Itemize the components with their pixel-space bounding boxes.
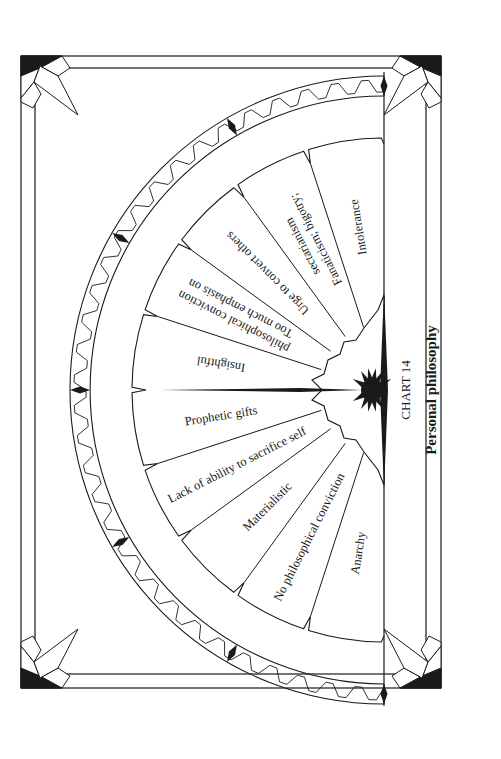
corner-ornament-bottom-right [384, 629, 441, 688]
segment-label-materialistic: Materialistic [240, 479, 295, 534]
svg-text:Prophetic gifts: Prophetic gifts [184, 403, 259, 428]
segment-label-intolerance: Intolerance [347, 198, 370, 256]
chart-diagram: IntoleranceFanaticism; bigotry;sectarian… [0, 0, 501, 759]
svg-text:Intolerance: Intolerance [347, 198, 370, 256]
corner-ornament-top-right [384, 56, 441, 115]
corner-ornament-bottom-left [21, 629, 78, 688]
title-block: CHART 14 Personal philosophy [398, 325, 439, 455]
svg-text:Insightful: Insightful [195, 353, 246, 375]
segment-label-insightful: Insightful [195, 353, 246, 375]
chart-number: CHART 14 [398, 360, 413, 420]
svg-text:Anarchy: Anarchy [348, 530, 369, 575]
chart-title: Personal philosophy [423, 325, 439, 455]
segment-label-prophetic-gifts: Prophetic gifts [184, 403, 259, 428]
svg-text:Materialistic: Materialistic [240, 479, 295, 534]
segment-label-fanaticism: Fanaticism; bigotry;sectarianism [273, 191, 345, 294]
chart-page: IntoleranceFanaticism; bigotry;sectarian… [0, 0, 501, 759]
corner-ornament-top-left [21, 56, 78, 115]
segment-label-anarchy: Anarchy [348, 530, 369, 575]
